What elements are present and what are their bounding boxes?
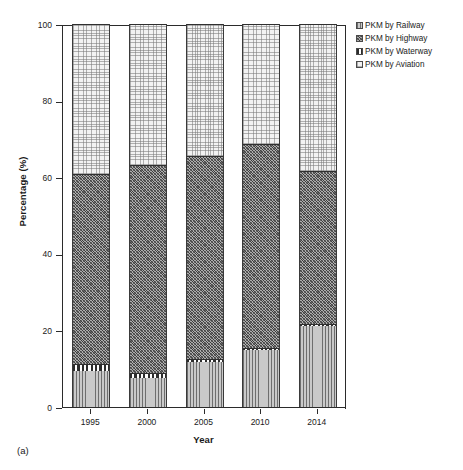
x-tick-mark (204, 409, 205, 414)
bar-2000 (129, 24, 167, 407)
vertical-lines-pattern (356, 22, 363, 29)
checkerboard-pattern (356, 48, 363, 55)
legend-item-highway: PKM by Highway (356, 32, 460, 45)
x-tick-label: 2005 (174, 417, 234, 427)
bar-segment-waterway-1995 (73, 364, 109, 371)
plot-right-border (345, 25, 346, 409)
bar-segment-aviation-2000 (130, 24, 166, 165)
y-tick-label: 100 (6, 21, 52, 30)
bar-segment-waterway-2000 (130, 373, 166, 378)
legend-item-label: PKM by Railway (365, 21, 425, 30)
bar-segment-railway-1995 (73, 371, 109, 407)
bar-segment-waterway-2005 (187, 359, 223, 362)
y-tick-label: 80 (6, 97, 52, 106)
y-tick-label: 0 (6, 404, 52, 413)
bar-2014 (299, 24, 337, 407)
bar-segment-waterway-2014 (300, 324, 336, 326)
bar-segment-highway-2014 (300, 171, 336, 324)
legend-item-label: PKM by Aviation (365, 60, 424, 69)
bar-segment-highway-2005 (187, 156, 223, 359)
legend-item-railway: PKM by Railway (356, 19, 460, 32)
legend-item-label: PKM by Waterway (365, 47, 432, 56)
x-tick-label: 2014 (287, 417, 347, 427)
legend-item-aviation: PKM by Aviation (356, 58, 460, 71)
panel-caption: (a) (17, 445, 29, 456)
plot-area (62, 25, 345, 408)
legend: PKM by RailwayPKM by HighwayPKM by Water… (356, 19, 460, 71)
bar-segment-railway-2010 (243, 350, 279, 407)
x-tick-mark (317, 409, 318, 414)
x-tick-mark (90, 409, 91, 414)
bar-segment-railway-2000 (130, 378, 166, 407)
bar-segment-railway-2014 (300, 326, 336, 407)
bar-segment-waterway-2010 (243, 348, 279, 350)
bar-2010 (242, 24, 280, 407)
x-tick-label: 1995 (60, 417, 120, 427)
bar-1995 (72, 24, 110, 407)
x-tick-label: 2010 (230, 417, 290, 427)
bar-2005 (186, 24, 224, 407)
y-tick-label: 60 (6, 174, 52, 183)
x-axis-title: Year (62, 434, 345, 445)
stacked-bar-chart: Percentage (%) 020406080100 199520002005… (0, 0, 463, 470)
diagonal-cross-pattern (356, 35, 363, 42)
x-tick-mark (147, 409, 148, 414)
bar-segment-aviation-1995 (73, 24, 109, 174)
y-tick-label: 40 (6, 250, 52, 259)
y-axis-title: Percentage (%) (17, 112, 28, 272)
bar-segment-highway-2010 (243, 144, 279, 348)
legend-item-label: PKM by Highway (365, 34, 427, 43)
x-tick-label: 2000 (117, 417, 177, 427)
x-tick-mark (260, 409, 261, 414)
y-tick-label: 20 (6, 327, 52, 336)
y-tick-mark (56, 408, 62, 409)
bar-segment-highway-1995 (73, 174, 109, 364)
light-dot-pattern (356, 61, 363, 68)
bar-segment-aviation-2010 (243, 24, 279, 144)
bar-segment-aviation-2014 (300, 24, 336, 171)
bar-segment-railway-2005 (187, 362, 223, 407)
legend-item-waterway: PKM by Waterway (356, 45, 460, 58)
bar-segment-aviation-2005 (187, 24, 223, 156)
bar-segment-highway-2000 (130, 165, 166, 373)
